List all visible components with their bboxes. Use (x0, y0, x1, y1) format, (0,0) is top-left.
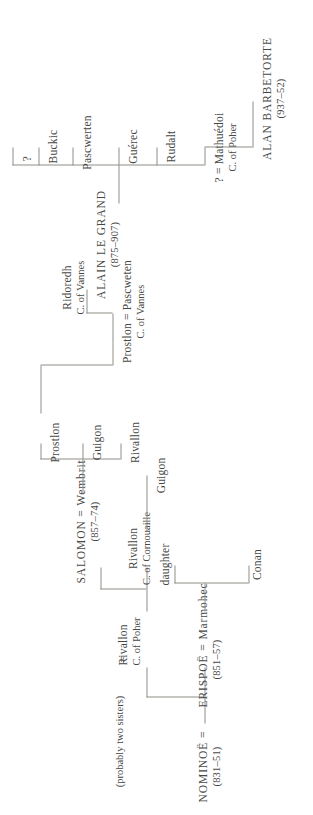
node-guerec-name: Guérec (126, 117, 140, 175)
node-conan: Conan (250, 535, 264, 593)
node-pascwerten: Pascwerten (80, 103, 94, 181)
connector-to-guigon-b (82, 443, 83, 459)
node-ridoredh: Ridoredh C. of Vannes (60, 239, 86, 335)
node-nominoe-name: NOMINOË = (196, 723, 210, 809)
connector-rivallon-guigon (146, 475, 147, 531)
connector-to-prostlon (40, 443, 41, 459)
note-probably-two-sisters: (probably two sisters) (113, 681, 125, 801)
connector-to-alain (86, 289, 87, 313)
connector-to-buckic (38, 147, 39, 165)
node-rivallon-b: Rivallon (128, 411, 142, 473)
node-pascwerten-name: Pascwerten (80, 103, 94, 181)
connector-couple-stem (112, 313, 113, 343)
connector-alain-children-stem (118, 165, 119, 203)
node-erispoe: ERISPOË = Marmohec (851–57) (196, 611, 222, 707)
node-salomon-dates: (857–74) (88, 455, 100, 587)
node-nominoe: NOMINOË = (831–51) (196, 723, 222, 809)
connector-to-rudalt (156, 147, 157, 165)
connector-nominoe-rivallon-v (146, 696, 204, 697)
node-prostlon-pascweten-name: Prostlon = Pascweten (120, 241, 134, 381)
node-alan-barbetorte-dates: (937–52) (274, 23, 286, 173)
node-prostlon-top-name: Prostlon (48, 413, 62, 471)
node-guigon-a: Guigon (154, 445, 168, 505)
node-conan-name: Conan (250, 535, 264, 593)
node-rivallon-cornouaille-name: Rivallon (126, 493, 140, 603)
node-guigon-a-name: Guigon (154, 445, 168, 505)
node-guigon-b-name: Guigon (90, 413, 104, 471)
node-alan-barbetorte: ALAN BARBETORTE (937–52) (260, 23, 286, 173)
node-guerec: Guérec (126, 117, 140, 175)
node-prostlon-pascweten-title: C. of Vannes (134, 241, 146, 381)
connector-erispoe-children-bracket (174, 582, 248, 583)
node-erispoe-dates: (851–57) (210, 611, 222, 707)
connector-to-rivallon-b (120, 443, 121, 459)
node-salomon-name: SALOMON = Wembrit (74, 455, 88, 587)
connector-to-mathuedoi (204, 147, 205, 165)
node-ridoredh-title: C. of Vannes (74, 239, 86, 335)
node-buckic: Buckic (46, 119, 60, 173)
node-alan-barbetorte-name: ALAN BARBETORTE (260, 23, 274, 173)
node-ridoredh-name: Ridoredh (60, 239, 74, 335)
connector-to-daughter (174, 565, 175, 583)
node-erispoe-name: ERISPOË = Marmohec (196, 611, 210, 707)
connector-nominoe-rivallon-h (146, 667, 147, 697)
node-rudalt: Rudalt (164, 117, 178, 175)
connector-to-pascwerten (72, 147, 73, 165)
node-rivallon-b-name: Rivallon (128, 411, 142, 473)
family-tree-canvas: NOMINOË = (831–51) (probably two sisters… (0, 0, 313, 815)
node-rudalt-name: Rudalt (164, 117, 178, 175)
connector-to-alan-barbetorte (252, 101, 253, 147)
node-daughter-name: daughter (158, 531, 172, 597)
node-prostlon-top: Prostlon (48, 413, 62, 471)
node-rivallon-cornouaille: Rivallon C. of Cornouaille (126, 493, 152, 603)
node-prostlon-pascweten: Prostlon = Pascweten C. of Vannes (120, 241, 146, 381)
connector-prostlon-marriage (40, 365, 41, 413)
connector-to-conan (248, 565, 249, 583)
node-daughter: daughter (158, 531, 172, 597)
connector-erispoe-children-stem (204, 583, 205, 611)
node-unknown-name: ? (20, 145, 34, 171)
connector-to-unknown (12, 147, 13, 165)
connector-prostlon-pascweten (112, 343, 113, 365)
node-salomon: SALOMON = Wembrit (857–74) (74, 455, 100, 587)
node-buckic-name: Buckic (46, 119, 60, 173)
node-nominoe-dates: (831–51) (210, 723, 222, 809)
node-alain-le-grand: ALAIN LE GRAND (875–907) (94, 173, 120, 315)
node-alain-le-grand-name: ALAIN LE GRAND (94, 173, 108, 315)
node-unknown: ? (20, 145, 34, 171)
connector-to-guerec (118, 147, 119, 165)
connector-prostlon-drop (40, 364, 112, 365)
node-guigon-b: Guigon (90, 413, 104, 471)
connector-salomon-children-stem (82, 459, 83, 493)
connector-mathuedoi-drop (204, 146, 252, 147)
